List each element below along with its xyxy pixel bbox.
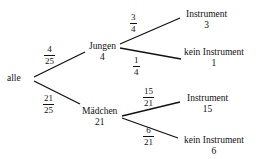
node-count: 4 <box>89 52 116 63</box>
branch-alle-maedchen <box>34 81 80 104</box>
node-count: 15 <box>187 104 228 115</box>
prob-denominator: 25 <box>44 57 55 66</box>
node-count: 21 <box>82 117 117 128</box>
prob-numerator: 3 <box>130 13 137 22</box>
prob-maedchen: 21 25 <box>43 94 54 115</box>
prob-jungen-instrument: 3 4 <box>130 13 137 34</box>
node-label: Instrument <box>186 9 227 20</box>
node-root: alle <box>7 73 21 84</box>
node-maedchen-instrument: Instrument 15 <box>187 93 228 115</box>
prob-jungen-kein-instrument: 1 4 <box>133 56 140 77</box>
branch-alle-jungen <box>34 52 85 77</box>
prob-numerator: 6 <box>145 126 152 135</box>
node-maedchen: Mädchen 21 <box>82 106 117 128</box>
node-maedchen-kein-instrument: kein Instrument 6 <box>184 135 244 157</box>
node-count: 6 <box>184 146 244 157</box>
prob-jungen: 4 25 <box>44 45 55 66</box>
node-count: 1 <box>184 58 244 69</box>
prob-denominator: 25 <box>43 106 54 115</box>
branch-jungen-kein-instrument <box>120 48 181 59</box>
prob-denominator: 21 <box>143 138 154 147</box>
prob-numerator: 1 <box>133 56 140 65</box>
node-jungen: Jungen 4 <box>89 41 116 63</box>
prob-numerator: 15 <box>143 87 154 96</box>
prob-maedchen-kein-instrument: 6 21 <box>143 126 154 147</box>
node-label: kein Instrument <box>184 47 244 58</box>
node-label: Instrument <box>187 93 228 104</box>
node-root-label: alle <box>7 73 21 84</box>
prob-numerator: 4 <box>46 45 53 54</box>
node-count: 3 <box>186 20 227 31</box>
prob-maedchen-instrument: 15 21 <box>143 87 154 108</box>
node-jungen-kein-instrument: kein Instrument 1 <box>184 47 244 69</box>
node-label: Jungen <box>89 41 116 52</box>
branch-jungen-instrument <box>120 18 180 44</box>
prob-denominator: 21 <box>143 99 154 108</box>
prob-denominator: 4 <box>130 25 137 34</box>
prob-denominator: 4 <box>133 68 140 77</box>
prob-numerator: 21 <box>43 94 54 103</box>
node-label: kein Instrument <box>184 135 244 146</box>
node-label: Mädchen <box>82 106 117 117</box>
node-jungen-instrument: Instrument 3 <box>186 9 227 31</box>
